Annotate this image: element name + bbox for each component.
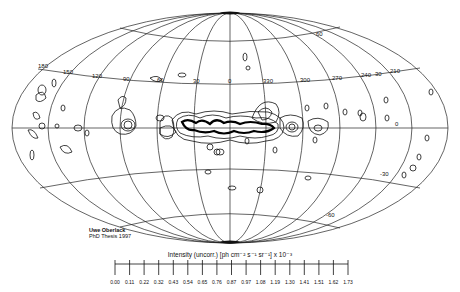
lat-label: -60 [326, 212, 335, 218]
colorbar-tick: 0.76 [212, 279, 222, 285]
colorbar-tick: 0.87 [227, 279, 237, 285]
colorbar-tick: 0.00 [110, 279, 120, 285]
grid-labels: 180 150 120 90 60 30 0 330 300 270 240 3… [38, 31, 401, 218]
colorbar-tick: 0.43 [168, 279, 178, 285]
lon-label: 0 [228, 78, 232, 84]
colorbar-tick: 1.62 [329, 279, 339, 285]
colorbar-tick-labels: 0.00 0.11 0.22 0.32 0.43 0.54 0.65 0.76 … [0, 279, 460, 289]
lat-label: 0 [395, 121, 399, 127]
colorbar-tick: 1.73 [343, 279, 353, 285]
lon-label: 300 [300, 77, 311, 83]
colorbar-tick: 0.54 [183, 279, 193, 285]
colorbar-tick: 1.51 [314, 279, 324, 285]
lat-label: -30 [380, 171, 389, 177]
lon-label: 150 [63, 69, 74, 75]
colorbar-tick: 1.19 [270, 279, 280, 285]
sky-map: 180 150 120 90 60 30 0 330 300 270 240 3… [0, 0, 460, 292]
colorbar-tick: 0.22 [139, 279, 149, 285]
credit-thesis: PhD Thesis 1997 [89, 233, 131, 239]
colorbar-tick: 1.08 [256, 279, 266, 285]
colorbar-tick: 0.65 [198, 279, 208, 285]
lon-label: 120 [92, 73, 103, 79]
colorbar-tick: 1.41 [299, 279, 309, 285]
lon-label: 30 [193, 78, 200, 84]
lon-label: 240 [361, 72, 372, 78]
colorbar-tick: 0.32 [154, 279, 164, 285]
lon-label: 270 [332, 75, 343, 81]
coordinate-grid [12, 12, 448, 244]
lon-label: 90 [123, 76, 130, 82]
lon-label: 330 [263, 78, 274, 84]
colorbar-tick: 0.97 [241, 279, 251, 285]
colorbar-tick: 1.30 [285, 279, 295, 285]
colorbar-tick: 0.11 [125, 279, 134, 285]
colorbar-label: Intensity (uncorr.) [ph cm⁻² s⁻¹ sr⁻¹] x… [0, 251, 460, 259]
credit: Uwe Oberlack PhD Thesis 1997 [89, 227, 131, 239]
lat-label: 60 [316, 31, 323, 37]
intensity-contours [28, 53, 433, 193]
lon-label: 180 [38, 63, 49, 69]
lon-label: 30 [375, 71, 382, 77]
lon-label: 210 [390, 68, 401, 74]
